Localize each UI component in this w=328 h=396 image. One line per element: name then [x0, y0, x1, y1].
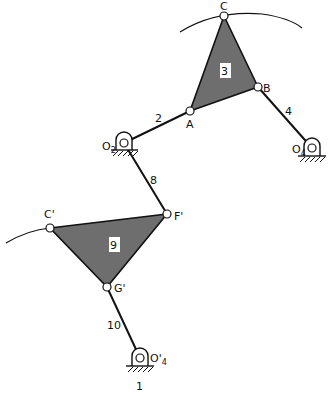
linkage-diagram: 3 9 C B A O: [0, 0, 328, 396]
label-link-2: 2: [155, 112, 162, 125]
joint-g-prime: [103, 283, 111, 291]
joint-a: [186, 107, 194, 115]
label-f-prime: F': [174, 210, 183, 223]
label-link-10: 10: [107, 319, 121, 332]
plate-9-label: 9: [110, 239, 117, 252]
plate-9: [50, 214, 167, 287]
label-ground: 1: [136, 380, 143, 393]
label-c: C: [220, 0, 228, 13]
label-g-prime: G': [114, 282, 126, 295]
joint-b: [254, 83, 262, 91]
label-o4-prime: O'4: [150, 352, 167, 367]
joint-c-prime: [46, 224, 54, 232]
coupler-curve-c: [180, 13, 302, 32]
label-a: A: [186, 118, 194, 131]
label-link-4: 4: [285, 105, 292, 118]
label-c-prime: C': [44, 208, 55, 221]
joint-f-prime: [163, 210, 171, 218]
joint-c: [220, 12, 228, 20]
label-b: B: [263, 82, 271, 95]
label-link-8: 8: [150, 174, 157, 187]
label-o2: O2: [102, 140, 116, 155]
plate-3-label: 3: [221, 65, 228, 78]
